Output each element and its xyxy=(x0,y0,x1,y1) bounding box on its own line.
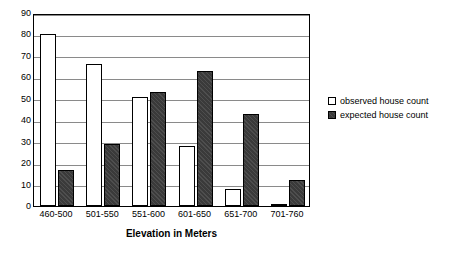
legend-swatch-observed-icon xyxy=(328,97,336,105)
bar-expected-601-650 xyxy=(197,71,213,206)
plot-area xyxy=(34,15,309,206)
x-axis-title: Elevation in Meters xyxy=(33,228,310,239)
x-axis-tick-label: 701-760 xyxy=(261,209,313,219)
x-axis-tick-label: 501-550 xyxy=(76,209,128,219)
y-axis-tick-label: 30 xyxy=(3,138,31,147)
bar-expected-651-700 xyxy=(243,114,259,206)
bar-observed-701-760 xyxy=(271,204,287,206)
legend-label-observed: observed house count xyxy=(340,96,429,106)
bar-expected-701-760 xyxy=(289,180,305,206)
y-axis-tick-label: 80 xyxy=(3,30,31,39)
bar-expected-551-600 xyxy=(150,92,166,206)
legend-item-observed: observed house count xyxy=(328,96,452,106)
y-axis-tick-label: 90 xyxy=(3,9,31,18)
bar-observed-460-500 xyxy=(40,34,56,206)
x-axis-tick-label: 651-700 xyxy=(215,209,267,219)
x-axis-tick-label: 551-600 xyxy=(122,209,174,219)
bar-observed-651-700 xyxy=(225,189,241,206)
y-axis-tick-label: 70 xyxy=(3,52,31,61)
x-axis-tick-label: 460-500 xyxy=(30,209,82,219)
x-axis-tick-label: 601-650 xyxy=(169,209,221,219)
bar-observed-551-600 xyxy=(132,97,148,206)
legend-swatch-expected-icon xyxy=(328,111,336,119)
y-axis-tick-label: 50 xyxy=(3,95,31,104)
legend-label-expected: expected house count xyxy=(340,110,428,120)
chart-legend: observed house count expected house coun… xyxy=(328,96,452,124)
bar-expected-501-550 xyxy=(104,144,120,206)
y-axis-tick-label: 40 xyxy=(3,116,31,125)
bar-observed-601-650 xyxy=(179,146,195,206)
legend-item-expected: expected house count xyxy=(328,110,452,120)
bar-observed-501-550 xyxy=(86,64,102,206)
y-axis-tick-label: 0 xyxy=(3,202,31,211)
y-axis-tick-label: 20 xyxy=(3,159,31,168)
chart-root: 0102030405060708090 460-500501-550551-60… xyxy=(0,0,455,258)
plot-frame xyxy=(33,14,310,207)
y-axis-tick-label: 60 xyxy=(3,73,31,82)
bar-expected-460-500 xyxy=(58,170,74,206)
x-axis-tick-labels: 460-500501-550551-600601-650651-700701-7… xyxy=(33,209,310,225)
y-axis-tick-label: 10 xyxy=(3,181,31,190)
y-axis: 0102030405060708090 xyxy=(0,0,31,207)
